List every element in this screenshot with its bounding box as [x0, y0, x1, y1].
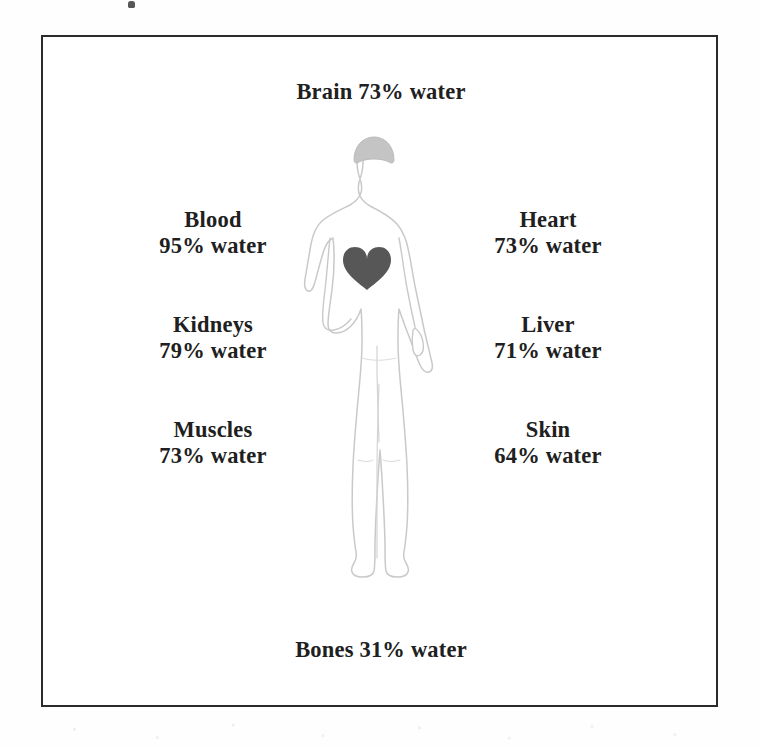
scan-artifact-speck	[128, 1, 135, 8]
scan-noise-band	[40, 718, 730, 746]
label-brain-text: Brain 73% water	[221, 79, 541, 105]
body-silhouette-path	[305, 140, 433, 577]
body-outline	[305, 140, 433, 577]
diagram-frame: Brain 73% water Blood 95% water Kidneys …	[41, 35, 718, 707]
diagram-canvas: Brain 73% water Blood 95% water Kidneys …	[43, 37, 716, 705]
human-body-figure-icon	[275, 122, 485, 622]
hair-cap	[354, 137, 394, 163]
label-bones-text: Bones 31% water	[221, 637, 541, 663]
label-bones: Bones 31% water	[221, 637, 541, 663]
label-brain: Brain 73% water	[221, 79, 541, 105]
